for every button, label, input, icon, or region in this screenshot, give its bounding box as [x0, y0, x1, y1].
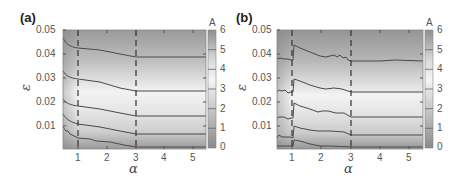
- ctick-a-3: 3: [220, 83, 226, 94]
- ytick-b-0.01: 0.01: [252, 120, 271, 131]
- ctick-a-5: 5: [220, 44, 226, 55]
- xtick-a-5: 5: [190, 152, 196, 163]
- xlabel-b: α: [344, 161, 353, 176]
- ytick-a-0.05: 0.05: [36, 24, 55, 35]
- xtick-a-2: 2: [104, 152, 110, 163]
- ctick-a-2: 2: [220, 103, 226, 114]
- ctick-b-1: 1: [437, 122, 443, 133]
- ylabel-a: ε: [18, 84, 33, 91]
- ctick-a-1: 1: [220, 122, 226, 133]
- xtick-a-4: 4: [161, 152, 167, 163]
- ytick-b-0.02: 0.02: [252, 96, 271, 107]
- ctick-b-4: 4: [437, 63, 443, 74]
- ctick-a-6: 6: [220, 24, 226, 35]
- xlabel-a: α: [129, 161, 138, 176]
- ytick-a-0.03: 0.03: [36, 72, 55, 83]
- panel-label-b: (b): [236, 10, 253, 25]
- figure-canvas: [0, 0, 464, 180]
- panel-a: [63, 30, 216, 149]
- ytick-a-0.02: 0.02: [36, 96, 55, 107]
- ytick-a-0.01: 0.01: [36, 120, 55, 131]
- colorbar-label-a: A: [209, 17, 216, 28]
- ctick-b-5: 5: [437, 44, 443, 55]
- ytick-b-0.03: 0.03: [252, 72, 271, 83]
- colorbar-label-b: A: [426, 17, 433, 28]
- ctick-b-2: 2: [437, 103, 443, 114]
- ytick-a-0.04: 0.04: [36, 48, 55, 59]
- ytick-b-0.05: 0.05: [252, 24, 271, 35]
- ctick-b-0: 0: [437, 141, 443, 152]
- xtick-b-1: 1: [289, 152, 295, 163]
- ctick-b-3: 3: [437, 83, 443, 94]
- panel-label-a: (a): [20, 10, 36, 25]
- ytick-b-0.04: 0.04: [252, 48, 271, 59]
- ylabel-b: ε: [234, 84, 249, 91]
- xtick-b-5: 5: [406, 152, 412, 163]
- heatmap-b-edge-shade: [277, 30, 292, 149]
- ctick-a-4: 4: [220, 63, 226, 74]
- xtick-b-2: 2: [318, 152, 324, 163]
- panel-b: [277, 30, 433, 149]
- ctick-a-0: 0: [220, 141, 226, 152]
- ctick-b-6: 6: [437, 24, 443, 35]
- heatmap-a: [63, 30, 206, 149]
- xtick-b-4: 4: [377, 152, 383, 163]
- xtick-a-1: 1: [75, 152, 81, 163]
